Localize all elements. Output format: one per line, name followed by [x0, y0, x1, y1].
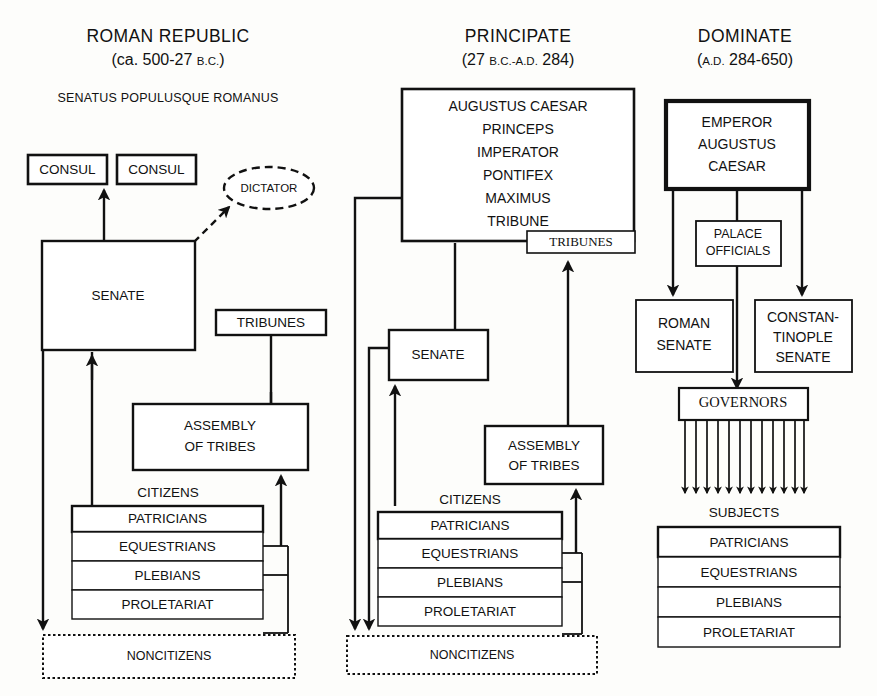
class-label-patricians-dominate: PATRICIANS	[709, 535, 788, 550]
roman-republic-dates: (ca. 500-27 B.C.)	[111, 51, 224, 68]
node-noncitizens-republic[interactable]: NONCITIZENS	[43, 635, 295, 678]
emperor-label-2: AUGUSTUS	[698, 136, 776, 152]
constantinople-label-1: CONSTAN-	[767, 309, 839, 325]
consul-right-label: CONSUL	[128, 162, 185, 177]
dominate-dates: (A.D. 284-650)	[697, 51, 793, 68]
diagram-canvas: ROMAN REPUBLIC (ca. 500-27 B.C.) SENATUS…	[0, 0, 877, 696]
class-label-equestrians-republic: EQUESTRIANS	[119, 539, 216, 554]
class-label-proletariat-republic: PROLETARIAT	[122, 597, 214, 612]
edge-governors-to-subjects-fan	[685, 420, 804, 493]
class-label-plebians-dominate: PLEBIANS	[716, 595, 782, 610]
assembly-principate-label-2: OF TRIBES	[508, 458, 579, 473]
edge-senate-to-dictator	[194, 207, 229, 242]
ruler-label-6: TRIBUNE	[487, 213, 548, 229]
roman-senate-label-1: ROMAN	[658, 315, 710, 331]
node-ruler-principate[interactable]: AUGUSTUS CAESAR PRINCEPS IMPERATOR PONTI…	[402, 89, 634, 241]
ruler-label-3: IMPERATOR	[477, 144, 559, 160]
subjects-label: SUBJECTS	[709, 505, 780, 520]
column-header-principate: PRINCIPATE (27 B.C.-A.D. 284)	[462, 26, 575, 68]
constantinople-label-3: SENATE	[776, 349, 831, 365]
node-palace-officials[interactable]: PALACE OFFICIALS	[696, 221, 781, 266]
node-assembly-principate[interactable]: ASSEMBLY OF TRIBES	[485, 426, 603, 484]
ruler-label-1: AUGUSTUS CAESAR	[448, 98, 587, 114]
roman-senate-label-2: SENATE	[657, 337, 712, 353]
assembly-republic-label-2: OF TRIBES	[184, 439, 255, 454]
class-stack-republic: PATRICIANS EQUESTRIANS PLEBIANS PROLETAR…	[72, 506, 263, 619]
class-label-equestrians-dominate: EQUESTRIANS	[701, 565, 798, 580]
senate-principate-label: SENATE	[411, 347, 464, 362]
node-assembly-republic[interactable]: ASSEMBLY OF TRIBES	[133, 404, 308, 470]
node-tribunes-republic[interactable]: TRIBUNES	[216, 310, 326, 335]
node-noncitizens-principate[interactable]: NONCITIZENS	[347, 636, 597, 674]
roman-republic-title: ROMAN REPUBLIC	[86, 26, 249, 46]
spqr-motto: SENATUS POPULUSQUE ROMANUS	[58, 91, 279, 105]
class-label-patricians-principate: PATRICIANS	[430, 518, 509, 533]
class-stack-principate: PATRICIANS EQUESTRIANS PLEBIANS PROLETAR…	[378, 512, 562, 626]
tribunes-principate-label: TRIBUNES	[549, 234, 613, 249]
palace-label-2: OFFICIALS	[706, 244, 771, 258]
node-consul-left[interactable]: CONSUL	[28, 155, 107, 184]
node-roman-senate[interactable]: ROMAN SENATE	[636, 300, 733, 372]
ruler-label-4: PONTIFEX	[483, 167, 554, 183]
class-label-plebians-republic: PLEBIANS	[134, 568, 200, 583]
class-stack-dominate: PATRICIANS EQUESTRIANS PLEBIANS PROLETAR…	[658, 527, 840, 647]
class-label-proletariat-dominate: PROLETARIAT	[703, 625, 795, 640]
senate-republic-label: SENATE	[91, 288, 144, 303]
assembly-principate-label-1: ASSEMBLY	[508, 438, 580, 453]
node-consul-right[interactable]: CONSUL	[117, 155, 196, 184]
roman-government-diagram: ROMAN REPUBLIC (ca. 500-27 B.C.) SENATUS…	[0, 0, 877, 696]
class-label-patricians-republic: PATRICIANS	[128, 511, 207, 526]
class-label-equestrians-principate: EQUESTRIANS	[422, 546, 519, 561]
governors-label: GOVERNORS	[699, 394, 788, 410]
principate-dates: (27 B.C.-A.D. 284)	[462, 51, 575, 68]
assembly-republic-label-1: ASSEMBLY	[184, 418, 256, 433]
principate-title: PRINCIPATE	[465, 26, 571, 46]
dictator-label: DICTATOR	[241, 182, 298, 194]
class-label-plebians-principate: PLEBIANS	[437, 575, 503, 590]
node-tribunes-principate[interactable]: TRIBUNES	[527, 231, 635, 253]
emperor-label-1: EMPEROR	[702, 114, 773, 130]
citizens-label-republic: CITIZENS	[137, 485, 199, 500]
noncitizens-label-republic: NONCITIZENS	[127, 649, 212, 663]
node-governors[interactable]: GOVERNORS	[679, 388, 808, 420]
constantinople-label-2: TINOPLE	[773, 329, 833, 345]
node-constantinople-senate[interactable]: CONSTAN- TINOPLE SENATE	[755, 300, 852, 372]
node-dictator[interactable]: DICTATOR	[224, 167, 314, 209]
consul-left-label: CONSUL	[39, 162, 96, 177]
citizens-label-principate: CITIZENS	[439, 492, 501, 507]
ruler-label-2: PRINCEPS	[482, 121, 554, 137]
column-header-dominate: DOMINATE (A.D. 284-650)	[697, 26, 793, 68]
noncitizens-label-principate: NONCITIZENS	[430, 648, 515, 662]
node-senate-principate[interactable]: SENATE	[389, 330, 488, 380]
tribunes-republic-label: TRIBUNES	[237, 315, 305, 330]
palace-label-1: PALACE	[714, 227, 762, 241]
column-header-roman-republic: ROMAN REPUBLIC (ca. 500-27 B.C.) SENATUS…	[58, 26, 279, 105]
emperor-label-3: CAESAR	[708, 158, 766, 174]
node-emperor-dominate[interactable]: EMPEROR AUGUSTUS CAESAR	[666, 101, 809, 189]
dominate-title: DOMINATE	[698, 26, 792, 46]
node-senate-republic[interactable]: SENATE	[42, 241, 195, 350]
class-label-proletariat-principate: PROLETARIAT	[424, 604, 516, 619]
ruler-label-5: MAXIMUS	[485, 190, 550, 206]
